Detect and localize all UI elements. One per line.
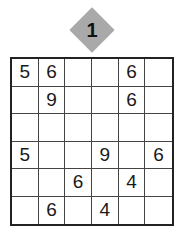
puzzle-grid: 566965966464	[10, 57, 174, 226]
grid-cell-r6-c5[interactable]	[119, 197, 146, 225]
grid-cell-r4-c2[interactable]	[39, 142, 66, 170]
grid-cell-r3-c5[interactable]	[119, 114, 146, 142]
grid-cell-r1-c1[interactable]: 5	[12, 59, 39, 87]
grid-cell-r2-c5[interactable]: 6	[119, 87, 146, 115]
grid-cell-r3-c6[interactable]	[145, 114, 172, 142]
grid-cell-r1-c4[interactable]	[92, 59, 119, 87]
grid-cell-r2-c1[interactable]	[12, 87, 39, 115]
grid-cell-r3-c2[interactable]	[39, 114, 66, 142]
grid-cell-r5-c2[interactable]	[39, 169, 66, 197]
grid-cell-r5-c4[interactable]	[92, 169, 119, 197]
grid-cell-r6-c6[interactable]	[145, 197, 172, 225]
grid-cell-r5-c6[interactable]	[145, 169, 172, 197]
grid-cell-r1-c2[interactable]: 6	[39, 59, 66, 87]
grid-cell-r6-c1[interactable]	[12, 197, 39, 225]
grid-cell-r6-c3[interactable]	[65, 197, 92, 225]
grid-cell-r6-c4[interactable]: 4	[92, 197, 119, 225]
grid-cell-r4-c6[interactable]: 6	[145, 142, 172, 170]
grid-cell-r3-c1[interactable]	[12, 114, 39, 142]
grid-cell-r3-c4[interactable]	[92, 114, 119, 142]
grid-cell-r2-c6[interactable]	[145, 87, 172, 115]
grid-cell-r2-c2[interactable]: 9	[39, 87, 66, 115]
grid-cell-r2-c3[interactable]	[65, 87, 92, 115]
grid-cell-r1-c3[interactable]	[65, 59, 92, 87]
grid-cell-r4-c3[interactable]	[65, 142, 92, 170]
grid-cell-r4-c4[interactable]: 9	[92, 142, 119, 170]
grid-cell-r6-c2[interactable]: 6	[39, 197, 66, 225]
grid-cell-r1-c5[interactable]: 6	[119, 59, 146, 87]
grid-cell-r5-c5[interactable]: 4	[119, 169, 146, 197]
grid-cell-r3-c3[interactable]	[65, 114, 92, 142]
grid-cell-r5-c3[interactable]: 6	[65, 169, 92, 197]
grid-cell-r4-c5[interactable]	[119, 142, 146, 170]
grid-cell-r5-c1[interactable]	[12, 169, 39, 197]
grid-cell-r4-c1[interactable]: 5	[12, 142, 39, 170]
puzzle-number: 1	[70, 14, 114, 46]
grid-cell-r1-c6[interactable]	[145, 59, 172, 87]
grid-cell-r2-c4[interactable]	[92, 87, 119, 115]
